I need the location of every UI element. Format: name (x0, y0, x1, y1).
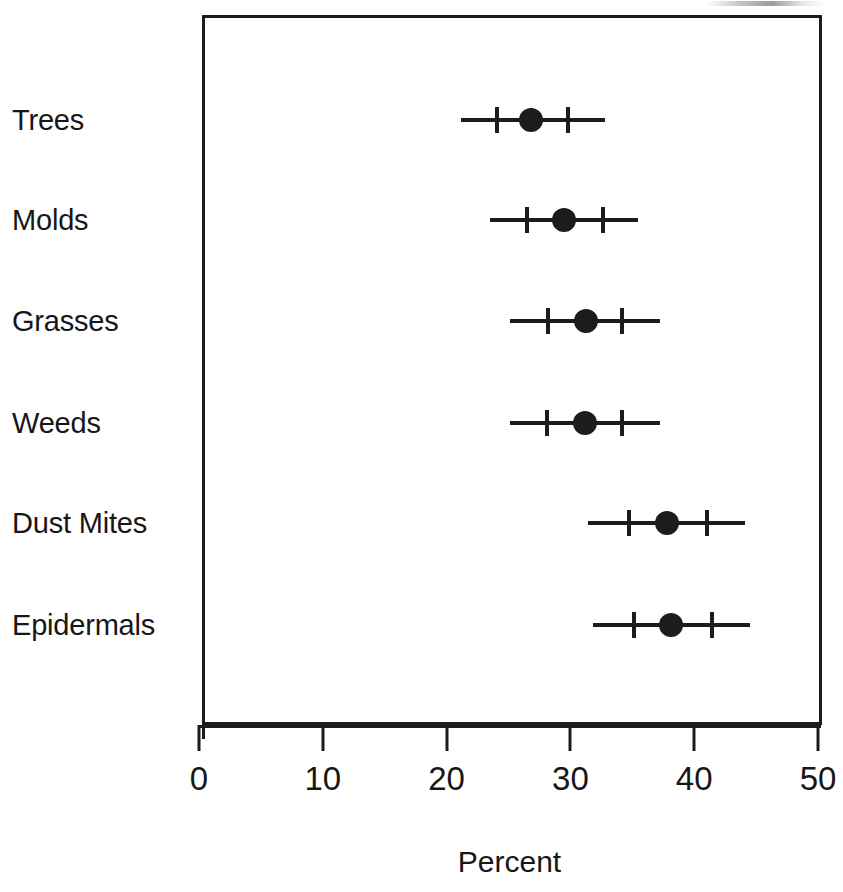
x-axis-title: Percent (0, 845, 843, 879)
x-axis-tick-label: 20 (428, 760, 465, 798)
confidence-interval-tick (545, 410, 549, 436)
confidence-interval-tick (627, 510, 631, 536)
x-axis-tick (321, 725, 324, 751)
category-label: Trees (12, 104, 84, 137)
confidence-interval-tick (620, 308, 624, 334)
dot-plot-figure: TreesMoldsGrassesWeedsDust MitesEpiderma… (0, 0, 843, 892)
x-axis-tick (569, 725, 572, 751)
x-axis-title-text: Percent (458, 845, 561, 879)
category-label: Epidermals (12, 609, 155, 642)
x-axis-tick-label: 30 (552, 760, 589, 798)
x-axis-tick (817, 725, 820, 751)
confidence-interval-tick (620, 410, 624, 436)
category-label: Molds (12, 204, 88, 237)
confidence-interval-tick (566, 107, 570, 133)
x-axis-line (199, 725, 821, 728)
category-label: Dust Mites (12, 507, 147, 540)
x-axis-tick-label: 10 (304, 760, 341, 798)
estimate-point-marker (574, 309, 598, 333)
confidence-interval-tick (525, 207, 529, 233)
x-axis-tick (693, 725, 696, 751)
scan-artifact (706, 1, 826, 6)
x-axis-tick (445, 725, 448, 751)
category-label: Grasses (12, 305, 119, 338)
category-label: Weeds (12, 407, 101, 440)
estimate-point-marker (552, 208, 576, 232)
x-axis-tick (198, 725, 201, 751)
estimate-point-marker (573, 411, 597, 435)
confidence-interval-tick (632, 612, 636, 638)
estimate-point-marker (519, 108, 543, 132)
estimate-point-marker (659, 613, 683, 637)
confidence-interval-tick (495, 107, 499, 133)
x-axis-tick-label: 50 (800, 760, 837, 798)
x-axis-tick-label: 40 (676, 760, 713, 798)
x-axis-tick-label: 0 (190, 760, 208, 798)
confidence-interval-tick (546, 308, 550, 334)
confidence-interval-tick (705, 510, 709, 536)
confidence-interval-tick (710, 612, 714, 638)
confidence-interval-tick (601, 207, 605, 233)
estimate-point-marker (655, 511, 679, 535)
